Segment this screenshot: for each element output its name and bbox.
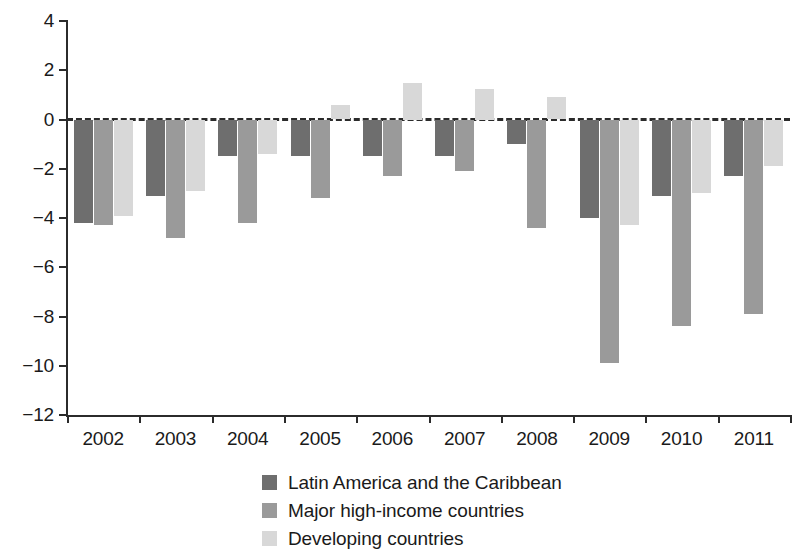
bar — [764, 120, 783, 167]
bar — [580, 120, 599, 219]
bar — [363, 120, 382, 157]
x-axis-tick-mark — [284, 415, 286, 423]
bar — [692, 120, 711, 194]
legend-swatch-icon — [262, 503, 277, 518]
bar — [114, 120, 133, 216]
bar — [331, 105, 350, 120]
bar — [652, 120, 671, 196]
legend-item: Developing countries — [262, 525, 682, 552]
x-axis-tick-mark — [212, 415, 214, 423]
legend-label: Latin America and the Caribbean — [288, 472, 562, 494]
bar — [547, 97, 566, 119]
x-axis-tick-label: 2005 — [284, 428, 356, 450]
bar — [291, 120, 310, 157]
chart-legend: Latin America and the CaribbeanMajor hig… — [262, 469, 682, 553]
y-axis-tick-label: −8 — [2, 307, 54, 326]
bar — [403, 83, 422, 120]
x-axis-tick-mark — [645, 415, 647, 423]
legend-swatch-icon — [262, 531, 277, 546]
x-axis-tick-mark — [790, 415, 792, 423]
x-axis-tick-label: 2006 — [356, 428, 428, 450]
bar — [146, 120, 165, 196]
y-axis-tick-label: −2 — [2, 159, 54, 178]
y-axis-tick-label: −10 — [2, 356, 54, 375]
x-axis-tick-label: 2002 — [67, 428, 139, 450]
x-axis-tick-label: 2007 — [429, 428, 501, 450]
bar — [672, 120, 691, 327]
legend-item: Latin America and the Caribbean — [262, 469, 682, 496]
bar — [166, 120, 185, 238]
bar — [600, 120, 619, 364]
bar — [435, 120, 454, 157]
x-axis-tick-label: 2008 — [501, 428, 573, 450]
bar — [744, 120, 763, 315]
bar — [620, 120, 639, 226]
bar — [74, 120, 93, 223]
legend-label: Developing countries — [288, 528, 463, 550]
y-axis-tick-label: 2 — [2, 60, 54, 79]
x-axis-tick-label: 2003 — [139, 428, 211, 450]
legend-label: Major high-income countries — [288, 500, 524, 522]
legend-swatch-icon — [262, 475, 277, 490]
y-axis-tick-labels: 420−2−4−6−8−10−12 — [0, 0, 54, 440]
y-axis-tick-label: 0 — [2, 110, 54, 129]
bar — [383, 120, 402, 177]
plot-area — [67, 21, 790, 415]
bar — [94, 120, 113, 226]
x-axis-tick-label: 2011 — [718, 428, 790, 450]
legend-item: Major high-income countries — [262, 497, 682, 524]
bar — [186, 120, 205, 191]
x-axis-tick-mark — [573, 415, 575, 423]
x-axis-tick-mark — [67, 415, 69, 423]
bar-chart: 420−2−4−6−8−10−12 2002200320042005200620… — [0, 0, 798, 553]
y-axis-tick-label: −12 — [2, 405, 54, 424]
y-axis-tick-label: 4 — [2, 11, 54, 30]
x-axis-tick-mark — [429, 415, 431, 423]
y-axis-tick-label: −4 — [2, 208, 54, 227]
bar — [238, 120, 257, 223]
x-axis-tick-label: 2009 — [573, 428, 645, 450]
x-axis-tick-mark — [718, 415, 720, 423]
bar — [258, 120, 277, 154]
bar — [527, 120, 546, 228]
x-axis-tick-label: 2004 — [212, 428, 284, 450]
y-axis-tick-label: −6 — [2, 257, 54, 276]
x-axis-tick-mark — [139, 415, 141, 423]
bar — [475, 89, 494, 120]
bar — [455, 120, 474, 172]
x-axis-tick-mark — [501, 415, 503, 423]
bar — [724, 120, 743, 177]
bar — [507, 120, 526, 145]
bar — [311, 120, 330, 199]
bar — [218, 120, 237, 157]
x-axis-tick-label: 2010 — [645, 428, 717, 450]
x-axis-tick-mark — [356, 415, 358, 423]
